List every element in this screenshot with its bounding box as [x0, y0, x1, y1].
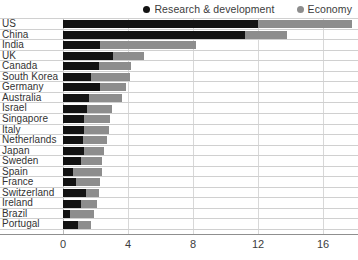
bar-research-development[interactable] [63, 126, 84, 134]
category-label: US [2, 18, 16, 29]
bar-research-development[interactable] [63, 115, 84, 123]
x-tick-label: 16 [317, 238, 329, 251]
bar-research-development[interactable] [63, 41, 100, 49]
bar-research-development[interactable] [63, 221, 78, 229]
x-tick-label: 12 [252, 238, 264, 251]
circle-marker-icon [297, 6, 304, 13]
chart-legend: Research & development Economy [0, 0, 358, 18]
x-axis-line [0, 234, 358, 235]
chart-row[interactable]: Singapore [0, 114, 358, 125]
category-label: Singapore [2, 113, 48, 124]
chart-row[interactable]: Germany [0, 82, 358, 93]
chart-row[interactable]: China [0, 30, 358, 41]
category-label: Australia [2, 92, 41, 103]
bar-research-development[interactable] [63, 73, 91, 81]
category-label: Spain [2, 166, 28, 177]
category-label: Italy [2, 124, 21, 135]
category-label: Portugal [2, 218, 40, 229]
chart-row[interactable]: Portugal [0, 219, 358, 230]
legend-label: Research & development [154, 4, 274, 15]
category-label: India [2, 39, 24, 50]
bar-research-development[interactable] [63, 189, 86, 197]
bar-research-development[interactable] [63, 52, 113, 60]
chart-row[interactable]: Ireland [0, 198, 358, 209]
chart-row[interactable]: Netherlands [0, 135, 358, 146]
category-label: UK [2, 50, 16, 61]
chart-row[interactable]: South Korea [0, 72, 358, 83]
bar-research-development[interactable] [63, 157, 81, 165]
category-label: Japan [2, 145, 30, 156]
chart-row[interactable]: Spain [0, 167, 358, 178]
category-label: South Korea [2, 71, 58, 82]
x-tick-label: 4 [125, 238, 131, 251]
x-tick-label: 8 [190, 238, 196, 251]
chart-row[interactable]: India [0, 40, 358, 51]
chart-row[interactable]: Brazil [0, 209, 358, 220]
category-label: France [2, 176, 33, 187]
bar-research-development[interactable] [63, 83, 100, 91]
category-label: Netherlands [2, 134, 56, 145]
bar-research-development[interactable] [63, 136, 83, 144]
legend-label: Economy [308, 4, 352, 15]
bars-container: USChinaIndiaUKCanadaSouth KoreaGermanyAu… [0, 18, 358, 234]
bar-chart: Research & development Economy USChinaIn… [0, 0, 358, 260]
x-axis: 0481216 [0, 234, 358, 260]
circle-marker-icon [143, 6, 150, 13]
category-label: Israel [2, 102, 27, 113]
category-label: Germany [2, 81, 43, 92]
chart-row[interactable]: UK [0, 51, 358, 62]
chart-row[interactable]: Sweden [0, 156, 358, 167]
legend-entry-economy[interactable]: Economy [297, 4, 352, 15]
bar-research-development[interactable] [63, 31, 245, 39]
bar-research-development[interactable] [63, 105, 87, 113]
plot-area: USChinaIndiaUKCanadaSouth KoreaGermanyAu… [0, 18, 358, 234]
category-label: Ireland [2, 197, 33, 208]
chart-row[interactable]: Japan [0, 146, 358, 157]
category-label: Brazil [2, 208, 27, 219]
bar-research-development[interactable] [63, 147, 84, 155]
legend-entry-research-development[interactable]: Research & development [143, 4, 274, 15]
category-label: China [2, 29, 28, 40]
bar-research-development[interactable] [63, 94, 89, 102]
bar-research-development[interactable] [63, 178, 76, 186]
chart-row[interactable]: Switzerland [0, 188, 358, 199]
chart-row[interactable]: Australia [0, 93, 358, 104]
category-label: Switzerland [2, 187, 54, 198]
bar-research-development[interactable] [63, 20, 258, 28]
bar-research-development[interactable] [63, 168, 73, 176]
chart-row[interactable]: US [0, 19, 358, 30]
x-tick-label: 0 [60, 238, 66, 251]
bar-research-development[interactable] [63, 200, 81, 208]
chart-row[interactable]: Israel [0, 103, 358, 114]
category-label: Canada [2, 60, 37, 71]
category-label: Sweden [2, 155, 38, 166]
bar-research-development[interactable] [63, 62, 99, 70]
bar-research-development[interactable] [63, 210, 70, 218]
